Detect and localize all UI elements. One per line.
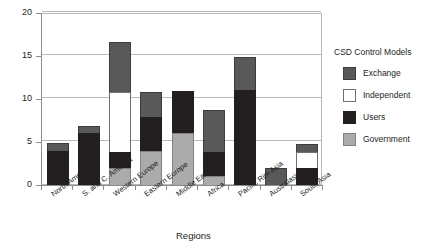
legend-swatch-users-icon: [343, 111, 356, 124]
y-tick-5: [36, 142, 41, 143]
y-tick-label-15: 15: [2, 51, 32, 60]
bar-segment-exchange: [203, 110, 225, 153]
gridline-20: [42, 11, 321, 12]
legend-items: ExchangeIndependentUsersGovernment: [334, 63, 437, 149]
legend-label-users: Users: [363, 112, 385, 122]
legend: CSD Control Models ExchangeIndependentUs…: [334, 47, 437, 151]
y-tick-label-5: 5: [2, 137, 32, 146]
y-tick-15: [36, 56, 41, 57]
legend-item-government[interactable]: Government: [334, 129, 437, 149]
legend-item-users[interactable]: Users: [334, 107, 437, 127]
x-tick-0: [41, 186, 42, 190]
bar-pacific-rim-asia: [234, 57, 256, 184]
x-tick-7: [260, 186, 261, 190]
bar-segment-independent: [109, 92, 131, 152]
bar-segment-users: [234, 90, 256, 185]
bar-segment-exchange: [140, 92, 162, 118]
y-tick-label-10: 10: [2, 94, 32, 103]
legend-label-independent: Independent: [363, 90, 410, 100]
legend-label-exchange: Exchange: [363, 68, 401, 78]
stacked-bar-chart: 05101520 North AmericaS. and C. AmericaW…: [0, 0, 437, 249]
bar-segment-users: [140, 117, 162, 151]
legend-title: CSD Control Models: [334, 47, 437, 57]
y-tick-label-0: 0: [2, 180, 32, 189]
legend-item-exchange[interactable]: Exchange: [334, 63, 437, 83]
x-tick-9: [322, 186, 323, 190]
legend-label-government: Government: [363, 134, 410, 144]
x-tick-1: [72, 186, 73, 190]
x-tick-3: [135, 186, 136, 190]
y-tick-label-20: 20: [2, 8, 32, 17]
x-tick-8: [291, 186, 292, 190]
bar-segment-exchange: [234, 57, 256, 91]
x-axis-title: Regions: [176, 230, 211, 241]
x-tick-4: [166, 186, 167, 190]
legend-item-independent[interactable]: Independent: [334, 85, 437, 105]
bar-segment-independent: [296, 152, 318, 169]
y-tick-20: [36, 13, 41, 14]
legend-swatch-government-icon: [343, 133, 356, 146]
bar-segment-users: [172, 91, 194, 134]
x-tick-5: [197, 186, 198, 190]
x-tick-6: [228, 186, 229, 190]
bar-segment-exchange: [109, 42, 131, 94]
y-axis-line: [41, 13, 42, 186]
legend-swatch-exchange-icon: [343, 67, 356, 80]
x-tick-2: [103, 186, 104, 190]
legend-swatch-independent-icon: [343, 89, 356, 102]
y-tick-10: [36, 99, 41, 100]
